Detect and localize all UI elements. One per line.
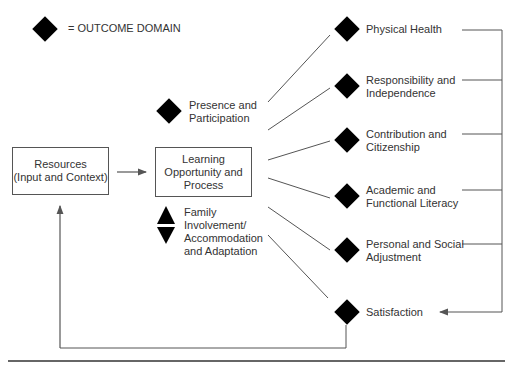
- outcome-physical-health: Physical Health: [366, 23, 442, 36]
- outcome-contribution: Contribution and Citizenship: [366, 128, 447, 154]
- learning-label-1: Learning: [182, 153, 225, 166]
- outcome-personal-social: Personal and Social Adjustment: [366, 238, 464, 264]
- family-line-1: Family: [184, 206, 263, 219]
- outcome-label: Adjustment: [366, 251, 464, 264]
- resources-sublabel: (Input and Context): [13, 171, 107, 184]
- presence-line-1: Presence and: [189, 99, 257, 112]
- outcome-label: Contribution and: [366, 128, 447, 141]
- family-label: Family Involvement/ Accommodation and Ad…: [184, 206, 263, 258]
- family-line-2: Involvement/: [184, 219, 263, 232]
- outcome-satisfaction: Satisfaction: [366, 306, 423, 319]
- outcome-responsibility: Responsibility and Independence: [366, 74, 455, 100]
- outcome-label: Physical Health: [366, 23, 442, 36]
- outcome-label: Functional Literacy: [366, 197, 458, 210]
- resources-label: Resources: [34, 158, 87, 171]
- family-line-3: Accommodation: [184, 232, 263, 245]
- learning-box: Learning Opportunity and Process: [155, 147, 252, 197]
- legend-label: = OUTCOME DOMAIN: [68, 22, 181, 35]
- outcome-label: Responsibility and: [366, 74, 455, 87]
- family-line-4: and Adaptation: [184, 245, 263, 258]
- presence-label: Presence and Participation: [189, 99, 257, 125]
- learning-label-2: Opportunity and: [164, 166, 242, 179]
- outcome-label: Citizenship: [366, 141, 447, 154]
- learning-label-3: Process: [184, 179, 224, 192]
- outcome-label: Satisfaction: [366, 306, 423, 319]
- outcome-label: Personal and Social: [366, 238, 464, 251]
- family-triangles-icon: [156, 205, 176, 245]
- outcome-academic: Academic and Functional Literacy: [366, 184, 458, 210]
- outcome-label: Academic and: [366, 184, 458, 197]
- outcome-label: Independence: [366, 87, 455, 100]
- resources-box: Resources (Input and Context): [12, 147, 109, 195]
- presence-line-2: Participation: [189, 112, 257, 125]
